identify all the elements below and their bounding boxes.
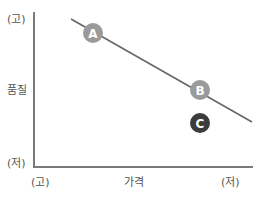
svg-text:B: B — [195, 84, 204, 98]
positioning-map: A B C — [0, 0, 264, 199]
svg-text:C: C — [196, 117, 205, 131]
point-c: C — [190, 113, 210, 133]
x-axis-high-label: (고) — [31, 173, 50, 189]
point-a: A — [83, 23, 103, 43]
point-b: B — [190, 80, 210, 100]
svg-text:A: A — [88, 27, 98, 41]
x-axis-low-label: (저) — [221, 173, 240, 189]
x-axis-title: 가격 — [124, 173, 144, 189]
y-axis-title: 품질 — [7, 81, 27, 97]
y-axis-low-label: (저) — [7, 154, 26, 170]
y-axis-high-label: (고) — [7, 10, 26, 26]
